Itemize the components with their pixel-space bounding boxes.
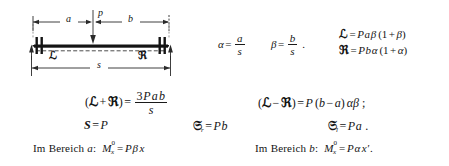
range-b-x: x′: [361, 142, 370, 154]
R-fraktur-symbol: ℜ: [339, 43, 349, 57]
beta-punctuation: .: [302, 38, 305, 50]
diff-b: b: [319, 96, 325, 110]
diff-equals: =: [296, 96, 306, 110]
L-rhs-a: a: [364, 28, 371, 40]
range-a-x: x: [139, 142, 145, 154]
diff-group-close: ): [341, 96, 345, 110]
diff-inner-minus: −: [325, 96, 335, 110]
Sr-rhs-P: P: [214, 119, 221, 133]
diff-P: P: [306, 96, 313, 110]
range-a-colon: :: [93, 142, 96, 154]
alpha-fraction: as: [235, 33, 245, 57]
figure-label-b: b: [128, 14, 133, 25]
L-fraktur-symbol: ℒ: [339, 27, 348, 41]
sum-fraction: 3Pabs: [135, 90, 168, 116]
range-a-beta: β: [132, 142, 139, 154]
beta-fraction: bs: [288, 33, 298, 57]
page-root: a p b s ℒ ℜ α=as β=bs. ℒ=Paβ(1+β) ℜ=Pbα(…: [0, 0, 449, 166]
beam-diagram-figure: a p b s ℒ ℜ: [18, 4, 208, 80]
guide-lines: [33, 24, 169, 38]
sum-plus: +: [98, 95, 108, 109]
beta-denominator: s: [288, 44, 298, 57]
equation-shear-S: S=P: [84, 119, 108, 132]
range-a-im: Im: [33, 142, 46, 154]
range-b-P: P: [347, 142, 354, 154]
diff-L: ℒ: [262, 95, 271, 110]
figure-label-right-moment: ℜ: [138, 50, 147, 62]
equation-right-moment-definition: ℜ=Pbα(1+α): [339, 44, 407, 57]
Sl-rhs-P: P: [348, 119, 355, 133]
R-plus: +: [389, 44, 398, 56]
support-right: [156, 37, 170, 54]
L-plus: +: [387, 28, 396, 40]
sum-numerator: 3Pab: [135, 90, 168, 103]
range-b-punctuation: .: [370, 142, 373, 154]
R-paren-close: ): [404, 44, 408, 56]
R-equals: =: [349, 44, 358, 56]
beam-diagram-svg: [18, 4, 208, 80]
equation-shear-right: 𝔖r=Pb: [193, 119, 228, 134]
range-b-im: Im: [255, 142, 268, 154]
beta-equals: =: [276, 38, 285, 50]
range-b-colon: :: [315, 142, 318, 154]
equation-left-moment-definition: ℒ=Paβ(1+β): [339, 28, 406, 41]
L-paren-close: ): [402, 28, 406, 40]
range-a-superscript: 0: [112, 140, 116, 147]
R-rhs-P: P: [358, 44, 365, 56]
equation-beta-definition: β=bs.: [271, 33, 305, 57]
support-left: [33, 37, 47, 54]
load-arrow-P: [90, 10, 96, 44]
equation-alpha-definition: α=as: [218, 33, 247, 57]
range-b-bereich: Bereich: [271, 142, 307, 154]
figure-label-left-moment: ℒ: [49, 50, 57, 62]
range-a-bereich: Bereich: [49, 142, 85, 154]
L-equals: =: [348, 28, 357, 40]
sum-num-b: b: [158, 89, 165, 103]
beta-numerator: b: [288, 33, 298, 45]
L-rhs-beta: β: [371, 28, 376, 40]
diff-minus: −: [271, 96, 281, 110]
equation-range-a: ImBereicha:M0x=Pβx: [33, 143, 145, 155]
sum-R: ℜ: [108, 94, 119, 109]
Sl-punctuation: .: [365, 119, 368, 133]
R-rhs-b: b: [365, 44, 372, 56]
range-a-equals: =: [116, 142, 125, 154]
equation-moment-difference: (ℒ−ℜ)=P(b−a)αβ;: [258, 96, 365, 110]
sum-equals: =: [123, 95, 133, 109]
range-a-subscript: x: [111, 149, 114, 156]
range-b-alpha: α: [354, 142, 361, 154]
sum-L: ℒ: [89, 94, 98, 109]
sum-num-3: 3: [137, 89, 143, 103]
diff-punctuation: ;: [362, 96, 365, 110]
range-b-equals: =: [338, 142, 347, 154]
Sr-rhs-b: b: [221, 119, 228, 133]
S-rhs-P: P: [100, 118, 107, 132]
range-b-superscript: 0: [334, 140, 338, 147]
range-a-P: P: [125, 142, 132, 154]
Sl-equals: =: [338, 119, 348, 133]
sum-num-P: P: [143, 89, 152, 103]
diff-R: ℜ: [281, 95, 292, 110]
figure-label-a: a: [66, 14, 71, 25]
Sr-equals: =: [204, 119, 214, 133]
R-rhs-alpha: α: [372, 44, 378, 56]
sum-denominator: s: [135, 102, 168, 116]
alpha-numerator: a: [235, 33, 245, 45]
alpha-symbol: α: [218, 38, 224, 50]
range-b-subscript: x: [333, 149, 336, 156]
equation-moment-sum: (ℒ+ℜ)=3Pabs: [85, 90, 169, 116]
diff-beta: β: [353, 96, 359, 110]
S-symbol: S: [84, 118, 91, 132]
equation-range-b: ImBereichb:M0x=Pαx′.: [255, 143, 373, 155]
R-one: 1: [383, 44, 389, 56]
equation-shear-left: 𝔖l=Pa.: [328, 119, 368, 134]
Sl-rhs-a: a: [355, 119, 362, 133]
figure-label-s: s: [97, 60, 101, 71]
alpha-equals: =: [224, 38, 233, 50]
S-equals: =: [91, 118, 101, 132]
L-rhs-P: P: [357, 28, 364, 40]
figure-label-p: p: [98, 8, 103, 19]
alpha-denominator: s: [235, 44, 245, 57]
